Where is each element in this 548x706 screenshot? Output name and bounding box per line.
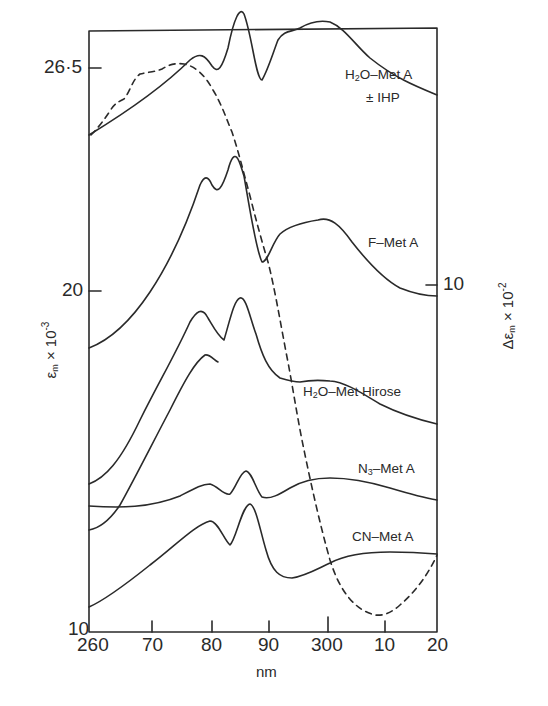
- y-right-title-rest: × 10: [499, 291, 516, 325]
- curve-label-h2o-met-a: H2O–Met A: [345, 67, 412, 83]
- y-left-axis-title: εm × 10-3: [40, 290, 60, 410]
- y-left-tick-label-20: 20: [62, 279, 83, 301]
- curve-label-n3-rest: –Met A: [373, 461, 415, 476]
- curve-f-met-a: [89, 156, 437, 348]
- curve-label-h2o-met-hirose: H2O–Met Hirose: [303, 384, 401, 400]
- x-tick-label-280: 80: [201, 634, 222, 656]
- y-left-title-main: ε: [42, 372, 59, 379]
- curve-label-n3-met-a: N3–Met A: [358, 461, 415, 477]
- x-tick-label-270: 70: [142, 634, 163, 656]
- y-right-title-sub: m: [507, 325, 517, 333]
- curve-label-n3-n: N: [358, 461, 368, 476]
- x-tick-label-310: 10: [374, 634, 395, 656]
- curve-label-cn-met-a: CN–Met A: [352, 529, 414, 544]
- spectra-chart: [0, 0, 548, 706]
- y-left-title-exp: -3: [40, 322, 51, 331]
- x-tick-label-290: 90: [258, 634, 279, 656]
- x-tick-label-320: 20: [427, 634, 448, 656]
- curve-label-hirose-h: H: [303, 384, 313, 399]
- curve-label-ihp: ± IHP: [366, 90, 400, 105]
- x-tick-label-260: 260: [77, 634, 109, 656]
- curve-cn-met-a: [89, 504, 437, 607]
- curve-label-h2o-met-a-h: H: [345, 67, 355, 82]
- y-right-axis-title: Δεm × 10-2: [497, 251, 517, 381]
- curve-label-f-met-a: F–Met A: [368, 235, 418, 250]
- x-tick-label-300: 300: [311, 634, 343, 656]
- y-left-title-sub: m: [50, 364, 60, 372]
- curve-label-h2o-met-a-rest: O–Met A: [360, 67, 413, 82]
- y-right-title-exp: -2: [497, 283, 508, 292]
- y-left-title-rest: × 10: [42, 330, 59, 364]
- y-right-title-main: Δε: [499, 333, 516, 350]
- y-left-tick-label-26-5: 26·5: [44, 56, 82, 78]
- y-right-tick-label-10: 10: [443, 273, 464, 295]
- x-axis-title: nm: [256, 663, 277, 680]
- curve-label-hirose-rest: O–Met Hirose: [318, 384, 401, 399]
